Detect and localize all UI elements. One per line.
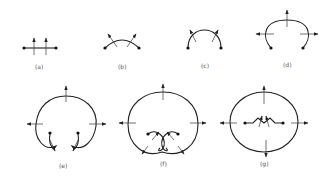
panel-label-e: (e): [59, 162, 67, 169]
arrow-icon: [190, 30, 196, 42]
panel-label-d: (d): [283, 61, 292, 68]
panel-g: (g): [220, 86, 308, 168]
panel-a: (a): [22, 38, 57, 70]
diagram-figure: (a) (b) (c) (d) (e): [0, 0, 334, 184]
panel-label-f: (f): [160, 160, 167, 167]
panel-c: (c): [186, 30, 222, 69]
panel-b: (b): [103, 34, 140, 70]
arrow-icon: [167, 132, 174, 140]
panel-e: (e): [27, 86, 106, 169]
panel-label-g: (g): [260, 160, 269, 168]
panel-f: (f): [119, 84, 206, 167]
panel-d: (d): [256, 10, 318, 68]
panel-label-a: (a): [35, 63, 43, 70]
panel-label-c: (c): [201, 62, 209, 69]
panel-label-b: (b): [118, 63, 127, 70]
arrow-icon: [152, 132, 159, 140]
